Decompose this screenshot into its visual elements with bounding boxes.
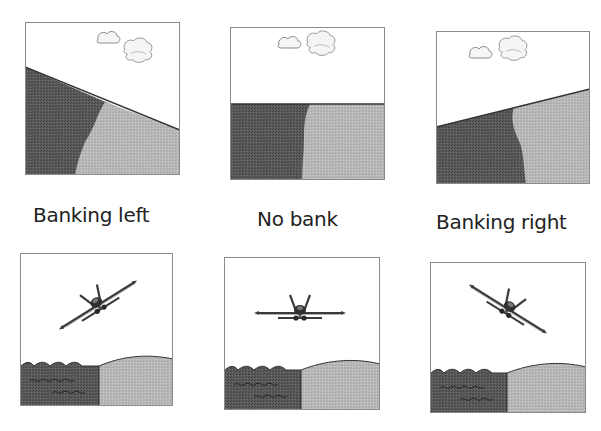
aircraft-illustration	[224, 257, 380, 410]
land	[507, 363, 586, 413]
cloud-icon	[97, 32, 120, 43]
horizon-view-banking-left	[25, 22, 180, 175]
water	[224, 366, 301, 410]
aircraft-view-no-bank	[224, 257, 380, 410]
horizon-view-no-bank	[230, 27, 385, 180]
horizon-illustration	[25, 22, 180, 175]
aircraft-view-banking-left	[20, 253, 173, 406]
aircraft-illustration	[430, 262, 586, 413]
water	[20, 362, 99, 406]
horizon-illustration	[230, 27, 385, 180]
cloud-icon	[278, 37, 301, 48]
caption-banking-left: Banking left	[33, 203, 149, 227]
light-ground	[302, 104, 385, 180]
land	[99, 356, 173, 406]
aircraft-view-banking-right	[430, 262, 586, 413]
aircraft-illustration	[20, 253, 173, 406]
caption-banking-right: Banking right	[436, 210, 567, 234]
land	[301, 360, 380, 410]
horizon-view-banking-right	[436, 31, 590, 184]
caption-no-bank: No bank	[257, 207, 338, 231]
water	[430, 369, 507, 413]
horizon-illustration	[436, 31, 590, 184]
cloud-icon	[469, 47, 492, 58]
